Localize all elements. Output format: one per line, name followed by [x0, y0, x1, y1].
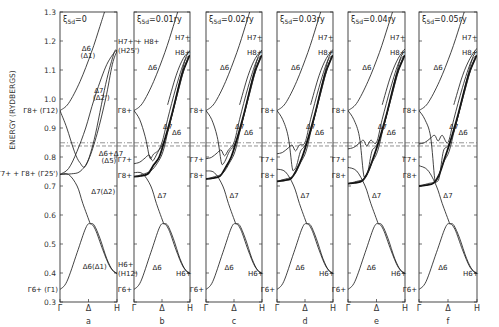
gamma-label: Γ7+ — [332, 156, 346, 164]
band-line — [164, 224, 190, 274]
band-label: Δ7 — [378, 123, 387, 131]
band-label: Δ7 — [163, 123, 172, 131]
band-label: Δ7 — [301, 192, 310, 200]
band-label: Δ7 — [230, 192, 239, 200]
panel-c: ξ5d=0.02ryΓΔHcΔ6Δ7Δ6Δ7Δ6Γ8+Γ7+Γ8+Γ6+H7+H… — [190, 12, 277, 326]
panel-d: ξ5d=0.03ryΓΔHdΔ6Δ7Δ6Δ7Δ6Γ8+Γ7+Γ8+Γ6+H7+H… — [261, 12, 348, 326]
x-tick-label: Γ — [275, 304, 280, 313]
xi-value: =0 — [75, 15, 87, 24]
h-label: H8+ — [318, 49, 334, 57]
xi-value: =0.02ry — [221, 15, 254, 24]
x-tick-label: Δ — [445, 304, 451, 313]
gamma-label: Γ7+ — [261, 156, 275, 164]
gamma-label: Γ6+ — [118, 286, 132, 294]
xi-subscript: 5d — [67, 18, 75, 25]
gamma-label: Γ8+ — [332, 172, 346, 180]
band-label: Δ6 — [362, 64, 372, 72]
band-line — [206, 56, 262, 159]
gamma-label: Γ8+ — [403, 107, 417, 115]
x-tick-label: Γ — [346, 304, 351, 313]
x-tick-label: Γ — [132, 304, 137, 313]
band-line — [206, 224, 262, 290]
band-label: Δ7 — [306, 123, 315, 131]
band-line — [134, 12, 178, 111]
gamma-label: Γ8+ — [261, 172, 275, 180]
band-label: Δ7 — [443, 192, 452, 200]
band-label: Δ7 — [372, 192, 381, 200]
band-line — [60, 174, 90, 224]
band-line — [450, 224, 477, 274]
panel-e: ξ5d=0.04ryΓΔHeΔ6Δ7Δ6Δ7Δ6Γ8+Γ7+Γ8+Γ6+H7+H… — [332, 12, 419, 326]
panel-f: ξ5d=0.05ryΓΔHfΔ6Δ7Δ6Δ7Δ6Γ8+Γ7+Γ8+Γ6+H7+H… — [403, 12, 480, 326]
y-tick-label: 0.4 — [44, 269, 56, 278]
y-ticks: 1.31.21.11.00.90.80.70.60.50.40.3 — [44, 8, 56, 307]
panel-a: ξ5d=0ΓΔHaΔ6(Δ1)Δ7(Δ2')Δ6+Δ7(Δ5)Δ7(Δ2)Δ6(… — [0, 12, 160, 326]
xi-value: =0.03ry — [292, 15, 325, 24]
band-label: Δ6 — [434, 64, 444, 72]
xi-value: =0.01ry — [149, 15, 182, 24]
band-label: Δ6 — [387, 129, 397, 137]
h-label: H7+ — [247, 34, 263, 42]
x-tick-label: H — [402, 304, 408, 313]
band-label: Δ6 — [172, 129, 182, 137]
h-label: H6+ — [118, 261, 134, 269]
band-line — [419, 56, 477, 144]
gamma-label: Γ7+ + Γ8+ (Γ25') — [0, 170, 58, 178]
panels: ξ5d=0ΓΔHaΔ6(Δ1)Δ7(Δ2')Δ6+Δ7(Δ5)Δ7(Δ2)Δ6(… — [0, 12, 480, 326]
band-line — [277, 56, 333, 154]
h-label: H6+ — [248, 270, 264, 278]
panel-header: ξ5d=0 — [63, 15, 87, 25]
band-line — [236, 224, 262, 274]
gamma-label: Γ8+ — [332, 107, 346, 115]
panel-caption: d — [302, 317, 307, 326]
band-line — [348, 56, 405, 184]
x-tick-label: Γ — [58, 304, 63, 313]
xi-subscript: 5d — [141, 18, 149, 25]
band-line — [419, 56, 477, 187]
panel-caption: c — [232, 317, 236, 326]
x-tick-label: H — [330, 304, 336, 313]
band-line — [419, 224, 477, 290]
band-label: Δ6 — [244, 129, 254, 137]
x-tick-label: H — [187, 304, 193, 313]
panel-caption: b — [159, 317, 164, 326]
h-label: H7+ + H8+ — [118, 38, 160, 46]
gamma-label: Γ7+ — [403, 156, 417, 164]
y-axis-label: ENERGY (RYDBERGS) — [8, 70, 17, 149]
gamma-label: Γ6+ — [332, 286, 346, 294]
band-label: Δ7 — [449, 123, 458, 131]
h-label: H6+ — [391, 270, 407, 278]
band-label: Δ6 — [438, 264, 448, 272]
h-label: H7+ — [462, 34, 478, 42]
band-label: Δ7(Δ2) — [91, 188, 115, 196]
gamma-label: Γ8+ — [190, 172, 204, 180]
xi-subscript: 5d — [426, 18, 434, 25]
gamma-label: Γ8+ — [118, 172, 132, 180]
band-line — [378, 224, 405, 274]
h-label: (H12) — [118, 270, 138, 278]
gamma-label: Γ7+ — [118, 156, 132, 164]
band-label: Δ6 — [367, 264, 377, 272]
band-label: Δ6 — [291, 64, 301, 72]
h-label: H8+ — [175, 49, 191, 57]
band-label: Δ6 — [315, 129, 325, 137]
y-tick-label: 0.7 — [44, 182, 56, 191]
band-line — [206, 12, 250, 111]
gamma-label: Γ8+ (Γ12) — [23, 107, 58, 115]
h-label: (H25') — [118, 47, 140, 55]
gamma-label: Γ8+ — [261, 107, 275, 115]
x-tick-label: Δ — [86, 304, 92, 313]
xi-subscript: 5d — [213, 18, 221, 25]
x-tick-label: H — [259, 304, 265, 313]
band-label: Δ6 — [458, 129, 468, 137]
band-label: Δ6 — [220, 64, 230, 72]
h-label: H6+ — [176, 270, 192, 278]
band-line — [134, 56, 190, 177]
y-tick-label: 0.6 — [44, 211, 56, 220]
h-label: H8+ — [390, 49, 406, 57]
gamma-label: Γ6+ — [403, 286, 417, 294]
y-tick-label: 1.0 — [44, 95, 56, 104]
x-tick-label: Δ — [302, 304, 308, 313]
gamma-label: Γ8+ — [403, 172, 417, 180]
gamma-label: Γ6+ (Γ1) — [28, 286, 59, 294]
